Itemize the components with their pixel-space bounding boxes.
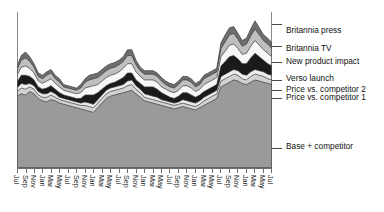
x-axis-tick <box>93 168 94 173</box>
x-axis-tick <box>68 168 69 173</box>
x-axis-tick-label: Jul <box>12 175 20 184</box>
x-axis-tick-label: Mar <box>46 175 54 187</box>
x-axis-tick <box>161 168 162 173</box>
x-axis-tick-label: Jul <box>114 175 122 184</box>
legend-leader-line <box>272 46 282 47</box>
x-axis-tick-label: Mar <box>97 175 105 187</box>
x-axis-tick <box>102 168 103 173</box>
x-axis-tick-label: Jan <box>139 175 147 187</box>
legend-item-label: Britannia TV <box>286 44 332 53</box>
legend-leader-line <box>272 148 282 149</box>
x-axis-tick-label: May <box>258 175 266 189</box>
x-axis-tick-label: May <box>55 175 63 189</box>
x-axis-tick-label: Jan <box>88 175 96 187</box>
x-axis-tick-labels: JulSepNovJanMarMayJulSepNovJanMarMayJulS… <box>17 175 272 209</box>
x-axis-tick <box>169 168 170 173</box>
x-axis-tick-label: Nov <box>80 175 88 188</box>
x-axis-tick <box>153 168 154 173</box>
x-axis-tick <box>195 168 196 173</box>
x-axis-tick-label: Sep <box>122 175 130 188</box>
legend-leader-line <box>272 80 282 81</box>
x-axis-tick-label: Jul <box>165 175 173 184</box>
x-axis-tick <box>136 168 137 173</box>
x-axis-tick-label: Sep <box>224 175 232 188</box>
plot-area <box>17 12 272 168</box>
x-axis-tick-label: May <box>156 175 164 189</box>
stacked-area-chart <box>17 12 272 168</box>
x-axis-tick <box>237 168 238 173</box>
x-axis-tick <box>229 168 230 173</box>
x-axis-tick-label: May <box>207 175 215 189</box>
x-axis-tick-label: Sep <box>72 175 80 188</box>
x-axis-tick <box>178 168 179 173</box>
legend-item-label: Base + competitor <box>286 142 353 151</box>
x-axis-tick-label: Jul <box>215 175 223 184</box>
legend-leader-line <box>272 98 282 99</box>
x-axis-tick-label: Sep <box>21 175 29 188</box>
x-axis-tick <box>51 168 52 173</box>
x-axis <box>17 168 272 174</box>
x-axis-tick <box>144 168 145 173</box>
legend-leader-line <box>272 24 282 25</box>
x-axis-tick-label: Jan <box>190 175 198 187</box>
x-axis-tick <box>85 168 86 173</box>
x-axis-tick-label: Jul <box>63 175 71 184</box>
x-axis-tick <box>119 168 120 173</box>
x-axis-tick-label: Nov <box>232 175 240 188</box>
x-axis-tick <box>26 168 27 173</box>
x-axis-tick <box>186 168 187 173</box>
legend: Britannia pressBritannia TVNew product i… <box>272 0 384 212</box>
x-axis-tick <box>263 168 264 173</box>
x-axis-tick <box>42 168 43 173</box>
x-axis-tick <box>127 168 128 173</box>
x-axis-tick-label: Jan <box>241 175 249 187</box>
legend-item-label: Price vs. competitor 1 <box>286 93 366 102</box>
x-axis-tick <box>220 168 221 173</box>
x-axis-tick <box>212 168 213 173</box>
legend-item-label: Britannia press <box>286 26 341 35</box>
x-axis-tick <box>203 168 204 173</box>
x-axis-tick <box>110 168 111 173</box>
legend-item-label: Verso launch <box>286 74 334 83</box>
x-axis-tick <box>254 168 255 173</box>
x-axis-tick <box>17 168 18 173</box>
x-axis-tick-label: May <box>105 175 113 189</box>
x-axis-tick-label: Sep <box>173 175 181 188</box>
legend-leader-line <box>272 62 282 63</box>
x-axis-tick-label: Nov <box>29 175 37 188</box>
x-axis-tick <box>76 168 77 173</box>
x-axis-tick-label: Nov <box>182 175 190 188</box>
chart-figure: JulSepNovJanMarMayJulSepNovJanMarMayJulS… <box>0 0 384 212</box>
x-axis-tick-label: Mar <box>199 175 207 187</box>
x-axis-tick <box>34 168 35 173</box>
x-axis-tick-label: Mar <box>249 175 257 187</box>
legend-leader-line <box>272 90 282 91</box>
x-axis-tick <box>246 168 247 173</box>
x-axis-tick-label: Nov <box>131 175 139 188</box>
x-axis-tick-label: Mar <box>148 175 156 187</box>
x-axis-tick-label: Jan <box>38 175 46 187</box>
x-axis-tick <box>59 168 60 173</box>
legend-item-label: New product impact <box>286 57 359 66</box>
